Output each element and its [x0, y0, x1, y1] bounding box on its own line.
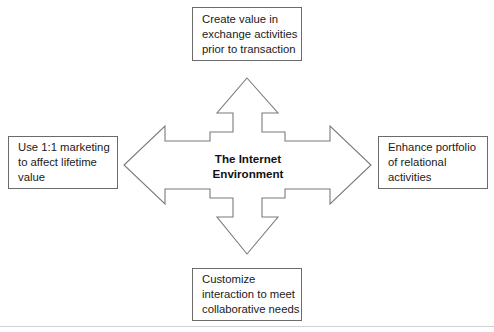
node-box-left: Use 1:1 marketing to affect lifetime val… — [8, 136, 118, 189]
center-label: The Internet Environment — [178, 152, 318, 181]
node-right-line-1: Enhance portfolio — [388, 140, 478, 155]
node-box-bottom: Customize interaction to meet collaborat… — [192, 268, 302, 321]
diagram-canvas: The Internet Environment Create value in… — [0, 0, 494, 332]
node-left-line-2: to affect lifetime — [18, 155, 108, 170]
node-top-line-3: prior to transaction — [202, 42, 292, 57]
node-bottom-line-3: collaborative needs — [202, 302, 292, 317]
center-label-line-1: The Internet — [178, 152, 318, 167]
center-label-line-2: Environment — [178, 167, 318, 182]
node-box-right: Enhance portfolio of relational activiti… — [378, 136, 488, 189]
node-top-line-2: exchange activities — [202, 27, 292, 42]
node-left-line-3: value — [18, 170, 108, 185]
node-bottom-line-1: Customize — [202, 272, 292, 287]
node-right-line-2: of relational — [388, 155, 478, 170]
node-box-top: Create value in exchange activities prio… — [192, 7, 302, 61]
node-right-line-3: activities — [388, 170, 478, 185]
bottom-divider — [0, 326, 494, 327]
node-left-line-1: Use 1:1 marketing — [18, 140, 108, 155]
node-bottom-line-2: interaction to meet — [202, 287, 292, 302]
node-top-line-1: Create value in — [202, 12, 292, 27]
